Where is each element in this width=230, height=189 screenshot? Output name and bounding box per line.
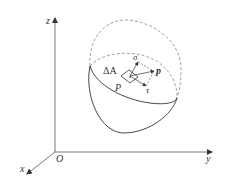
p-label: p <box>156 66 161 76</box>
sigma-label: σ <box>133 53 137 62</box>
x-axis-label: x <box>20 164 24 174</box>
area-label: ΔA <box>103 66 117 76</box>
diagram-canvas <box>0 0 230 189</box>
tau-p-dash <box>146 71 154 86</box>
axes <box>27 18 212 174</box>
x-axis <box>27 152 55 174</box>
z-axis-label: z <box>46 16 50 26</box>
tau-label: τ <box>146 86 149 95</box>
origin-label: O <box>56 154 63 164</box>
y-axis-label: y <box>206 154 210 164</box>
sigma-p-dash <box>138 62 154 71</box>
point-label: P <box>115 83 121 93</box>
